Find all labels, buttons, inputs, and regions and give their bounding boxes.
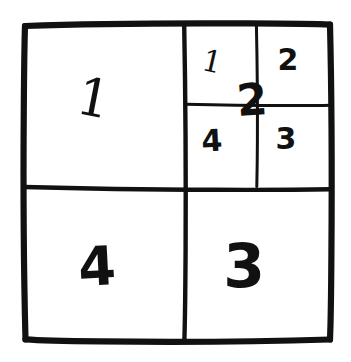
subquadrant-label-1: 1 — [195, 44, 229, 80]
subquadrant-label-3: 3 — [272, 124, 300, 154]
quadrant-label-4: 4 — [71, 239, 124, 296]
horizontal-midline — [25, 187, 332, 190]
parent-quadrant-label-2: 2 — [229, 77, 276, 124]
subquadrant-label-2: 2 — [274, 45, 302, 75]
quadrant-label-1: 1 — [65, 68, 122, 128]
subquadrant-label-4: 4 — [197, 125, 227, 156]
diagram-canvas: 1 4 3 1 2 4 3 2 — [0, 0, 351, 362]
quadrant-label-3: 3 — [218, 236, 270, 296]
vertical-midline — [184, 26, 186, 341]
